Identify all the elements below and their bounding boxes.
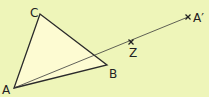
label-point-c: C xyxy=(30,6,38,20)
geometry-diagram: C A B Z A′ xyxy=(0,0,209,97)
label-point-b: B xyxy=(109,67,117,81)
label-point-a: A xyxy=(2,83,11,97)
label-point-z: Z xyxy=(129,46,137,60)
label-point-a-prime: A′ xyxy=(193,11,204,25)
